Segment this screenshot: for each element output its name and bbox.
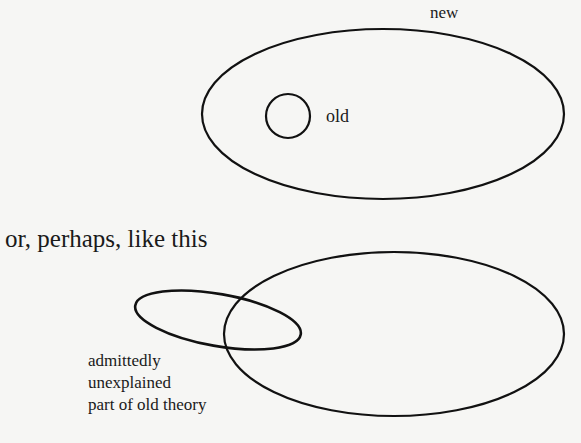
old-theory-label: old [326,107,349,125]
new-theory-ellipse [202,29,564,199]
section-heading: or, perhaps, like this [5,226,207,251]
note-line-1: admittedly [88,350,207,372]
old-theory-circle [266,94,310,138]
unexplained-part-note: admittedly unexplained part of old theor… [88,350,207,416]
new-theory-ellipse-overlap [224,252,564,416]
new-theory-label: new [430,4,458,21]
old-theory-ellipse-overlap [131,280,305,360]
note-line-3: part of old theory [88,394,207,416]
note-line-2: unexplained [88,372,207,394]
